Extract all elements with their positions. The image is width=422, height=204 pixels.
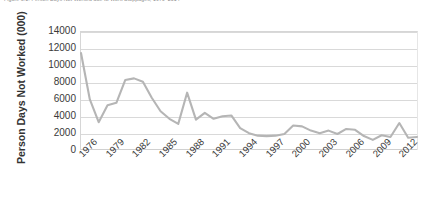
y-axis-tick-label: 10000: [48, 60, 76, 70]
y-axis-tick-label: 12000: [48, 43, 76, 53]
y-axis-tick-label: 2000: [54, 128, 76, 138]
line-chart: Person Days Not Worked (000) 02000400060…: [0, 0, 422, 204]
plot-area: [80, 31, 418, 150]
y-axis-tick-label: 0: [70, 145, 76, 155]
x-axis-tick-labels: 1976197919821985198819911994199720002003…: [80, 152, 418, 202]
y-axis-tick-label: 6000: [54, 94, 76, 104]
y-axis-tick-label: 14000: [48, 26, 76, 36]
series-line: [81, 32, 417, 150]
y-axis-tick-label: 8000: [54, 77, 76, 87]
y-axis-tick-labels: 02000400060008000100001200014000: [22, 24, 78, 156]
y-axis-tick-label: 4000: [54, 111, 76, 121]
